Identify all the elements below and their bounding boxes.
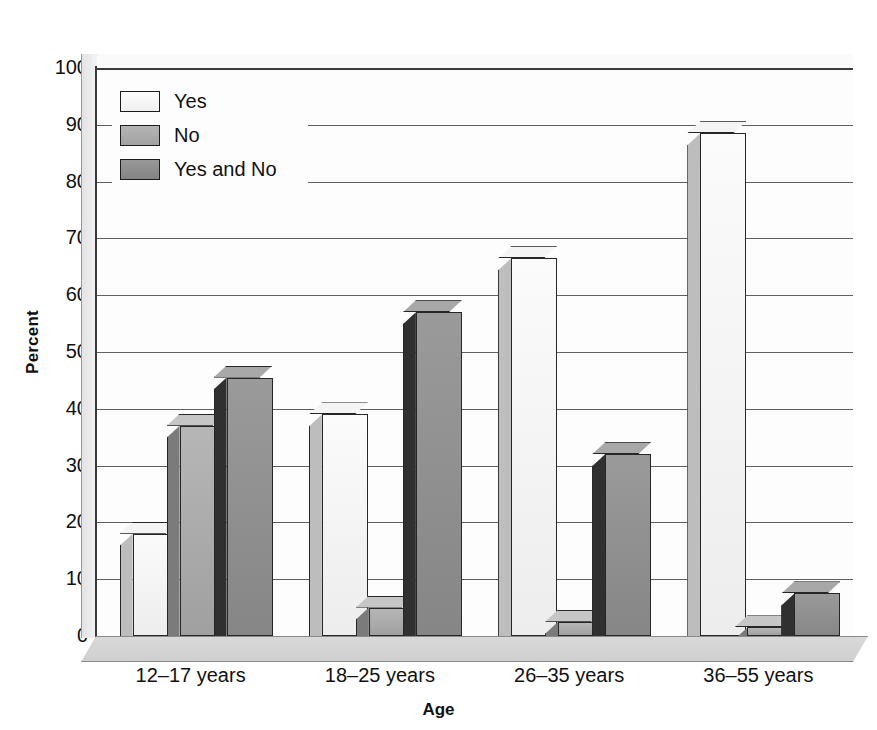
gridline (96, 68, 853, 70)
x-tick-label: 12–17 years (96, 664, 285, 687)
bar-side-face (120, 534, 133, 636)
y-tick-label: 60 (30, 284, 88, 304)
bar-top-face (781, 581, 840, 593)
bar (511, 258, 557, 636)
legend-swatch-icon (120, 125, 160, 146)
y-tick-label: 90 (30, 114, 88, 134)
plot-depth-top (81, 54, 853, 68)
y-tick-label: 70 (30, 227, 88, 247)
y-tick-label: 40 (30, 398, 88, 418)
y-tick-label: 30 (30, 455, 88, 475)
y-tick-label: 100 (30, 57, 88, 77)
bar-chart: Percent 1009080706050403020100 YesNoYes … (0, 0, 877, 730)
legend-swatch-icon (120, 91, 160, 112)
bar-side-face (214, 378, 227, 636)
bar-front-face (227, 378, 273, 636)
bar-side-face (498, 258, 511, 636)
bar-front-face (700, 133, 746, 636)
legend-item-yes: Yes (120, 84, 300, 118)
bar-top-face (687, 121, 746, 133)
x-tick-label: 26–35 years (475, 664, 664, 687)
x-axis-tick-labels: 12–17 years18–25 years26–35 years36–55 y… (96, 664, 868, 698)
bar-side-face (781, 593, 794, 636)
bar (416, 312, 462, 636)
bar-front-face (605, 454, 651, 636)
bar-top-face (592, 442, 651, 454)
bar-side-face (309, 414, 322, 636)
y-tick-label: 80 (30, 171, 88, 191)
bar-top-face (309, 402, 368, 414)
bar-top-face (498, 246, 557, 258)
legend: YesNoYes and No (112, 78, 308, 194)
bar (794, 593, 840, 636)
bar-side-face (687, 133, 700, 636)
y-tick-label: 50 (30, 341, 88, 361)
y-tick-label: 20 (30, 511, 88, 531)
chart-floor-edge (81, 636, 868, 662)
x-tick-label: 36–55 years (664, 664, 853, 687)
bar-side-face (403, 312, 416, 636)
legend-item-label: Yes and No (174, 159, 277, 179)
bar-top-face (403, 300, 462, 312)
bar-front-face (416, 312, 462, 636)
x-tick-label: 18–25 years (285, 664, 474, 687)
legend-item-yes-and-no: Yes and No (120, 152, 300, 186)
y-axis-line (95, 66, 97, 638)
y-axis-tick-labels: 1009080706050403020100 (20, 0, 88, 730)
bar-front-face (322, 414, 368, 636)
bar-front-face (794, 593, 840, 636)
legend-item-no: No (120, 118, 300, 152)
bar-front-face (511, 258, 557, 636)
bar (227, 378, 273, 636)
bar-side-face (592, 454, 605, 636)
y-tick-label: 10 (30, 568, 88, 588)
legend-item-label: Yes (174, 91, 207, 111)
bar (700, 133, 746, 636)
x-axis-title: Age (0, 700, 877, 720)
legend-item-label: No (174, 125, 200, 145)
bar (605, 454, 651, 636)
legend-swatch-icon (120, 159, 160, 180)
bar-side-face (167, 426, 180, 636)
bar (322, 414, 368, 636)
y-tick-label: 0 (30, 625, 88, 645)
bar-top-face (214, 366, 273, 378)
chart-floor (81, 636, 868, 662)
